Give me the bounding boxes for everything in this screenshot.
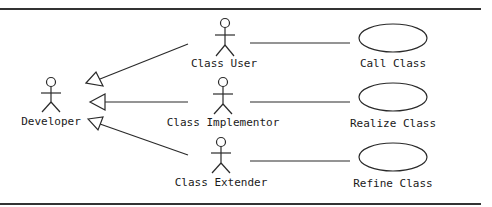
actor-label-class-implementor: Class Implementor xyxy=(167,116,280,129)
use-case-label-call-class: Call Class xyxy=(360,57,426,70)
actor-head-icon xyxy=(217,138,226,147)
actor-class-implementor[interactable] xyxy=(213,78,233,115)
use-case-label-realize-class: Realize Class xyxy=(350,117,436,130)
actor-label-class-extender: Class Extender xyxy=(175,176,268,189)
hollow-arrowhead-icon xyxy=(88,117,103,130)
hollow-arrowhead-icon xyxy=(90,94,105,110)
actor-class-extender[interactable] xyxy=(211,138,231,174)
use-case-call-class[interactable] xyxy=(359,24,427,52)
generalization-class-user[interactable] xyxy=(86,44,188,86)
generalization-class-implementor[interactable] xyxy=(90,94,188,110)
actor-label-developer: Developer xyxy=(21,115,81,128)
actor-label-class-user: Class User xyxy=(191,57,258,70)
use-case-refine-class[interactable] xyxy=(359,143,427,171)
use-case-realize-class[interactable] xyxy=(359,83,427,111)
actor-head-icon xyxy=(219,78,228,87)
actor-head-icon xyxy=(47,78,56,87)
use-case-diagram: Developer Class User Class Implementor C… xyxy=(0,0,492,207)
actor-developer[interactable] xyxy=(41,78,61,113)
use-case-label-refine-class: Refine Class xyxy=(353,177,432,190)
actor-head-icon xyxy=(221,19,230,28)
actor-class-user[interactable] xyxy=(215,19,235,57)
